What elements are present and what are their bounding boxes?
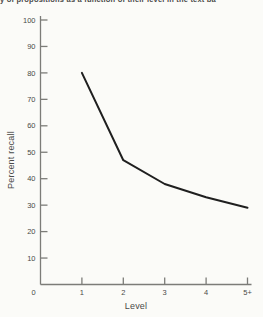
data-series	[82, 73, 248, 208]
x-axis-title: Level	[125, 301, 148, 311]
x-tick-label: 5+	[243, 288, 252, 297]
y-tick-label: 100	[23, 16, 36, 25]
y-tick-label: 20	[27, 227, 35, 236]
x-tick-label: 1	[80, 288, 84, 297]
x-tick-label: 2	[121, 288, 125, 297]
y-axis-title: Percent recall	[6, 131, 16, 189]
y-tick-label: 70	[27, 95, 35, 104]
recall-level-line-chart: 102030405060708090100 12345+ Percent rec…	[0, 0, 263, 317]
chart-canvas: 102030405060708090100 12345+ Percent rec…	[0, 0, 263, 317]
y-axis-ticks: 102030405060708090100	[23, 16, 48, 263]
x-tick-label: 3	[163, 288, 167, 297]
y-tick-label: 30	[27, 201, 35, 210]
origin-tick-label: 0	[31, 288, 35, 297]
y-tick-label: 60	[27, 121, 35, 130]
y-tick-label: 80	[27, 69, 35, 78]
y-tick-label: 10	[27, 254, 35, 263]
figure-page: y of propositions as a function of their…	[0, 0, 263, 317]
y-tick-label: 90	[27, 42, 35, 51]
x-tick-label: 4	[204, 288, 208, 297]
y-tick-label: 50	[27, 148, 35, 157]
y-tick-label: 40	[27, 174, 35, 183]
recall-line	[82, 73, 248, 208]
x-axis-ticks: 12345+	[80, 278, 253, 298]
